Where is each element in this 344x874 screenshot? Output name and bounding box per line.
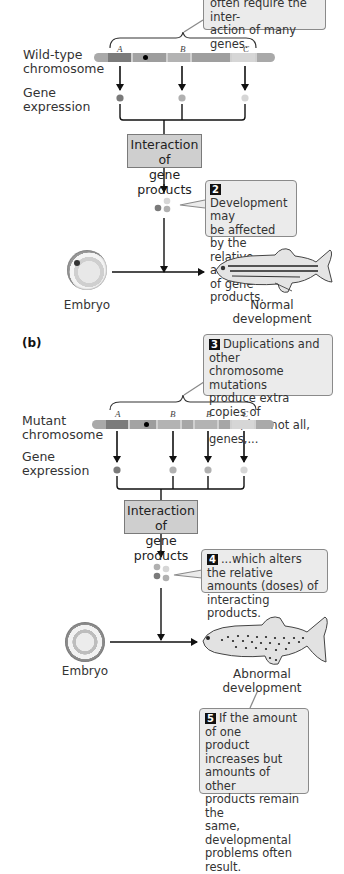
label-line: expression (22, 464, 89, 478)
box-line: Interaction of (125, 503, 197, 533)
embryo-b-icon (65, 622, 105, 662)
caption-line: Abnormal (222, 667, 302, 681)
callout-4-line: interacting products. (207, 594, 322, 621)
callout-5-line: 5If the amount of one (205, 712, 303, 739)
step-3-badge: 3 (209, 339, 220, 350)
mutant-chromosome-label: Mutant chromosome (22, 414, 103, 442)
callout-3: 3Duplications and other chromosome mutat… (203, 334, 333, 396)
callout-text: Duplications and other (209, 337, 319, 365)
callout-4-line: 4...which alters the relative (207, 553, 322, 580)
step-5-badge: 5 (205, 713, 216, 724)
label-line: Mutant (22, 414, 103, 428)
caption-line: development (232, 312, 312, 326)
panel-b-label: (b) (22, 336, 42, 350)
callout-3-line: produce extra copies of (209, 392, 327, 419)
label-line: chromosome (22, 428, 103, 442)
callout-3-line: 3Duplications and other (209, 338, 327, 365)
caption-line: Normal (232, 298, 312, 312)
embryo-b-label: Embryo (60, 664, 110, 678)
callout-text: If the amount of one (205, 711, 297, 739)
interaction-box-b: Interaction of gene products (124, 500, 198, 534)
normal-fish-icon (216, 249, 332, 293)
abnormal-development-label: Abnormal development (222, 667, 302, 695)
box-line: gene products (125, 533, 197, 563)
callout-4: 4...which alters the relative amounts (d… (201, 549, 328, 593)
gene-letter-c: C (242, 409, 248, 419)
gene-letter-b: B (170, 409, 176, 419)
callout-5: 5If the amount of one product increases … (199, 708, 309, 794)
callout-5-line: problems often result. (205, 847, 303, 874)
callout-5-line: same, developmental (205, 820, 303, 847)
callout-3-line: chromosome mutations (209, 365, 327, 392)
label-line: Gene (22, 450, 89, 464)
callout-5-line: product increases but (205, 739, 303, 766)
abnormal-fish-icon (203, 617, 327, 664)
centromere (144, 422, 149, 427)
callout-5-line: amounts of other (205, 766, 303, 793)
mutant-chromosome (92, 420, 274, 429)
step-4-badge: 4 (207, 554, 218, 565)
callout-text: ...which alters the relative (207, 552, 302, 580)
caption-line: development (222, 681, 302, 695)
gene-letter-a: A (115, 409, 121, 419)
callout-5-line: products remain the (205, 793, 303, 820)
normal-development-label: Normal development (232, 298, 312, 326)
gene-expression-label: Gene expression (22, 450, 89, 478)
gene-letter-b-duplicate: B (206, 409, 212, 419)
callout-4-line: amounts (doses) of (207, 580, 322, 594)
